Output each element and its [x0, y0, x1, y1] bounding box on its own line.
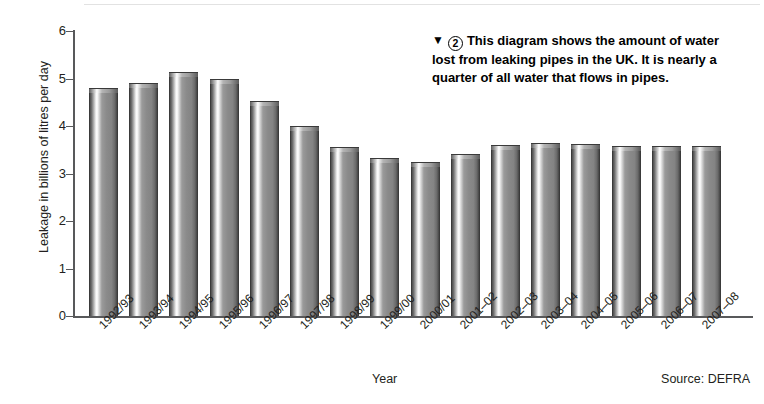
bar	[370, 158, 399, 316]
y-axis-tick	[66, 316, 74, 317]
bar	[411, 162, 440, 316]
x-axis-title: Year	[372, 372, 397, 386]
y-axis-tick-label: 0	[26, 309, 66, 322]
bar	[531, 143, 560, 316]
bar	[491, 145, 520, 316]
bar	[89, 88, 118, 316]
annotation-number-badge: 2	[448, 36, 463, 51]
y-axis-title: Leakage in billions of litres per day	[37, 17, 51, 297]
source-note: Source: DEFRA	[661, 372, 750, 386]
bar	[129, 83, 158, 316]
bar	[451, 154, 480, 316]
bar	[692, 146, 721, 316]
bar	[571, 144, 600, 316]
annotation-callout: ▼2This diagram shows the amount of water…	[432, 32, 732, 88]
bar	[250, 101, 279, 316]
bar	[612, 146, 641, 316]
bar	[210, 79, 239, 317]
bar	[330, 147, 359, 316]
x-axis-line	[73, 316, 753, 318]
bar	[169, 72, 198, 316]
bar	[290, 126, 319, 316]
triangle-down-icon: ▼	[432, 34, 444, 46]
bar	[652, 146, 681, 316]
annotation-text: This diagram shows the amount of water l…	[432, 33, 719, 85]
